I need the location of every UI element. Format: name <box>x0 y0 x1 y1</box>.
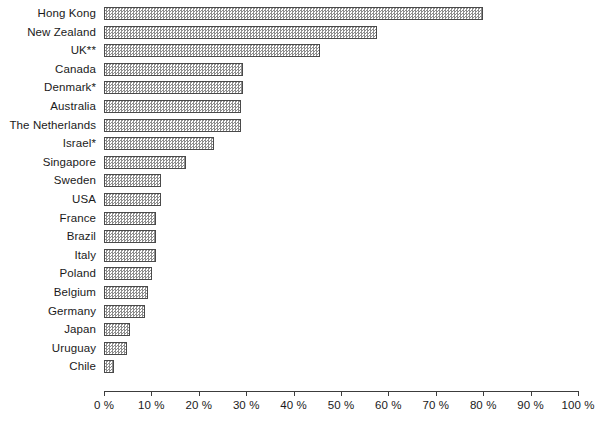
bar-row: Uruguay <box>104 341 578 360</box>
category-label: Australia <box>50 99 96 113</box>
bar <box>104 100 241 113</box>
category-label: UK** <box>71 43 96 57</box>
bar-row: The Netherlands <box>104 118 578 137</box>
x-axis-tick-label: 40 % <box>280 399 307 411</box>
category-label: Japan <box>64 322 96 336</box>
category-label: Italy <box>74 248 96 262</box>
bar <box>104 156 186 169</box>
x-axis-tick <box>531 391 532 396</box>
bar-row: Singapore <box>104 155 578 174</box>
bar-row: Hong Kong <box>104 6 578 25</box>
bar-row: USA <box>104 192 578 211</box>
x-axis-tick-label: 20 % <box>185 399 212 411</box>
category-label: Chile <box>69 359 96 373</box>
bar <box>104 267 152 280</box>
x-axis-tick-label: 100 % <box>561 399 594 411</box>
bar-row: Canada <box>104 62 578 81</box>
bar <box>104 249 156 262</box>
x-axis-tick-label: 80 % <box>470 399 497 411</box>
bar-row: Australia <box>104 99 578 118</box>
bar <box>104 212 156 225</box>
x-axis-tick <box>578 391 579 396</box>
bar <box>104 360 114 373</box>
bar <box>104 193 161 206</box>
plot-area: Hong KongNew ZealandUK**CanadaDenmark*Au… <box>104 6 578 391</box>
x-axis-tick-label: 90 % <box>517 399 544 411</box>
bar-chart: Hong KongNew ZealandUK**CanadaDenmark*Au… <box>0 0 611 423</box>
bar <box>104 286 148 299</box>
x-axis-tick <box>483 391 484 396</box>
bar-row: Japan <box>104 322 578 341</box>
bar-row: Belgium <box>104 285 578 304</box>
category-label: Denmark* <box>44 80 96 94</box>
category-label: France <box>60 211 96 225</box>
bar <box>104 119 241 132</box>
category-label: Canada <box>55 62 96 76</box>
category-label: Sweden <box>54 173 96 187</box>
bar <box>104 230 156 243</box>
bar-row: Sweden <box>104 173 578 192</box>
bar-row: Germany <box>104 304 578 323</box>
bar <box>104 81 243 94</box>
bar-rows: Hong KongNew ZealandUK**CanadaDenmark*Au… <box>104 6 578 378</box>
category-label: Singapore <box>43 155 96 169</box>
x-axis-tick-label: 30 % <box>233 399 260 411</box>
category-label: The Netherlands <box>9 118 96 132</box>
x-axis-tick-label: 50 % <box>328 399 355 411</box>
bar <box>104 174 161 187</box>
category-label: Hong Kong <box>38 6 96 20</box>
category-label: Belgium <box>54 285 96 299</box>
bar <box>104 305 145 318</box>
bar-row: Italy <box>104 248 578 267</box>
x-axis-tick <box>246 391 247 396</box>
x-axis-tick <box>104 391 105 396</box>
category-label: Uruguay <box>52 341 96 355</box>
x-axis-tick <box>436 391 437 396</box>
bar-row: UK** <box>104 43 578 62</box>
x-axis-tick <box>151 391 152 396</box>
x-axis-tick-label: 10 % <box>138 399 165 411</box>
bar-row: New Zealand <box>104 25 578 44</box>
category-label: USA <box>72 192 96 206</box>
x-axis-tick <box>199 391 200 396</box>
bar <box>104 7 483 20</box>
bar <box>104 63 243 76</box>
x-axis-tick-label: 0 % <box>94 399 114 411</box>
bar <box>104 26 377 39</box>
bar <box>104 323 130 336</box>
category-label: Israel* <box>63 136 96 150</box>
x-axis-tick-label: 60 % <box>375 399 402 411</box>
bar <box>104 44 320 57</box>
bar <box>104 342 127 355</box>
bar-row: Brazil <box>104 229 578 248</box>
bar-row: Denmark* <box>104 80 578 99</box>
x-axis-tick <box>388 391 389 396</box>
x-axis-tick <box>341 391 342 396</box>
bar-row: Chile <box>104 359 578 378</box>
category-label: Poland <box>60 266 96 280</box>
category-label: Germany <box>48 304 96 318</box>
bar <box>104 137 214 150</box>
bar-row: Poland <box>104 266 578 285</box>
category-label: Brazil <box>67 229 96 243</box>
bar-row: France <box>104 211 578 230</box>
x-axis-tick <box>294 391 295 396</box>
category-label: New Zealand <box>27 25 96 39</box>
bar-row: Israel* <box>104 136 578 155</box>
x-axis-tick-label: 70 % <box>422 399 449 411</box>
